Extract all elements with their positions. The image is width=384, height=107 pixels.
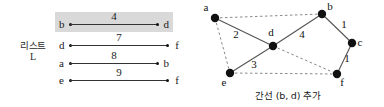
graph-node-label-f: f — [340, 76, 344, 88]
figure-root: 리스트 L b4dd7fa8be9f 23411 abcdef 간선 (b, d… — [0, 0, 384, 107]
graph-caption: 간선 (b, d) 추가 — [192, 88, 384, 102]
edge-connector-line — [70, 63, 158, 64]
list-label: 리스트 L — [11, 40, 55, 62]
graph-canvas: 23411 abcdef — [192, 0, 384, 90]
edge-endpoint-to: f — [175, 74, 179, 86]
graph-edge-dashed — [273, 46, 337, 74]
graph-edge-weight: 1 — [344, 52, 350, 64]
graph-edge-weight: 2 — [233, 28, 239, 40]
edge-endpoint-dot — [156, 62, 159, 65]
graph-node-label-c: c — [358, 36, 363, 48]
edge-list-panel: 리스트 L b4dd7fa8be9f — [0, 0, 192, 107]
graph-edge-dashed — [230, 73, 337, 74]
graph-panel: 23411 abcdef 간선 (b, d) 추가 — [192, 0, 384, 107]
graph-edge-dashed — [215, 18, 230, 73]
graph-edge-weight: 3 — [251, 58, 257, 70]
graph-edge-solid — [322, 14, 352, 43]
edge-weight-label: 7 — [55, 31, 183, 43]
graph-node-c — [348, 39, 356, 47]
edge-list-row: b4d — [55, 12, 173, 32]
graph-edges — [215, 14, 352, 74]
list-label-l: L — [11, 51, 55, 62]
edge-connector-line — [70, 80, 168, 81]
graph-node-label-e: e — [222, 76, 227, 88]
list-label-korean: 리스트 — [20, 40, 46, 51]
graph-node-e — [226, 69, 234, 77]
graph-edge-dashed — [215, 14, 322, 18]
graph-node-label-d: d — [268, 26, 274, 38]
graph-edge-weights: 23411 — [233, 18, 350, 70]
graph-edge-weight: 1 — [341, 18, 347, 30]
graph-node-d — [269, 42, 277, 50]
graph-edge-solid — [273, 14, 322, 46]
edge-weight-label: 9 — [55, 66, 183, 78]
graph-node-label-b: b — [327, 0, 333, 12]
graph-node-label-a: a — [204, 1, 209, 13]
edge-endpoint-to: f — [175, 39, 179, 51]
edge-connector-line — [70, 24, 158, 25]
edge-endpoint-dot — [156, 23, 159, 26]
edge-connector-line — [70, 45, 168, 46]
edge-weight-label: 4 — [55, 10, 173, 22]
edge-endpoint-dot — [166, 79, 169, 82]
graph-edge-weight: 4 — [299, 28, 305, 40]
graph-node-a — [211, 14, 219, 22]
edge-endpoint-to: d — [164, 18, 170, 30]
graph-node-b — [318, 10, 326, 18]
graph-nodes: abcdef — [204, 0, 363, 88]
edge-list-row: e9f — [55, 68, 183, 88]
edge-endpoint-dot — [166, 44, 169, 47]
graph-edge-solid — [215, 18, 273, 46]
edge-weight-label: 8 — [55, 49, 173, 61]
